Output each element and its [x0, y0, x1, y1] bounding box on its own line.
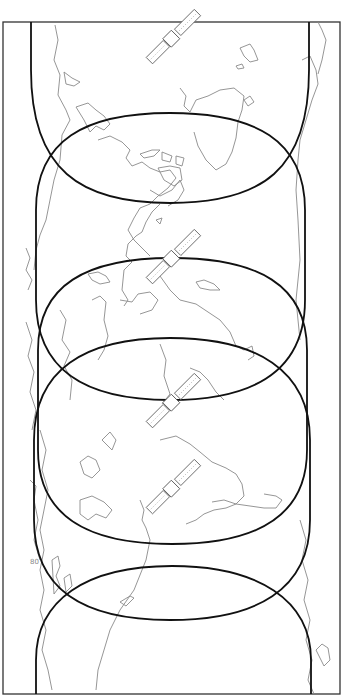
satellite-icon — [145, 458, 202, 515]
footprint-5 — [36, 566, 311, 694]
satellites — [145, 8, 202, 515]
satellite-icon — [145, 228, 202, 285]
satellite-icon — [145, 8, 202, 65]
map-label: 80 — [30, 558, 39, 566]
satellite-icon — [145, 372, 202, 429]
coverage-footprints — [31, 22, 311, 694]
coastlines — [26, 22, 330, 694]
footprint-4 — [34, 338, 310, 620]
satellite-coverage-diagram: 80 — [0, 0, 352, 700]
